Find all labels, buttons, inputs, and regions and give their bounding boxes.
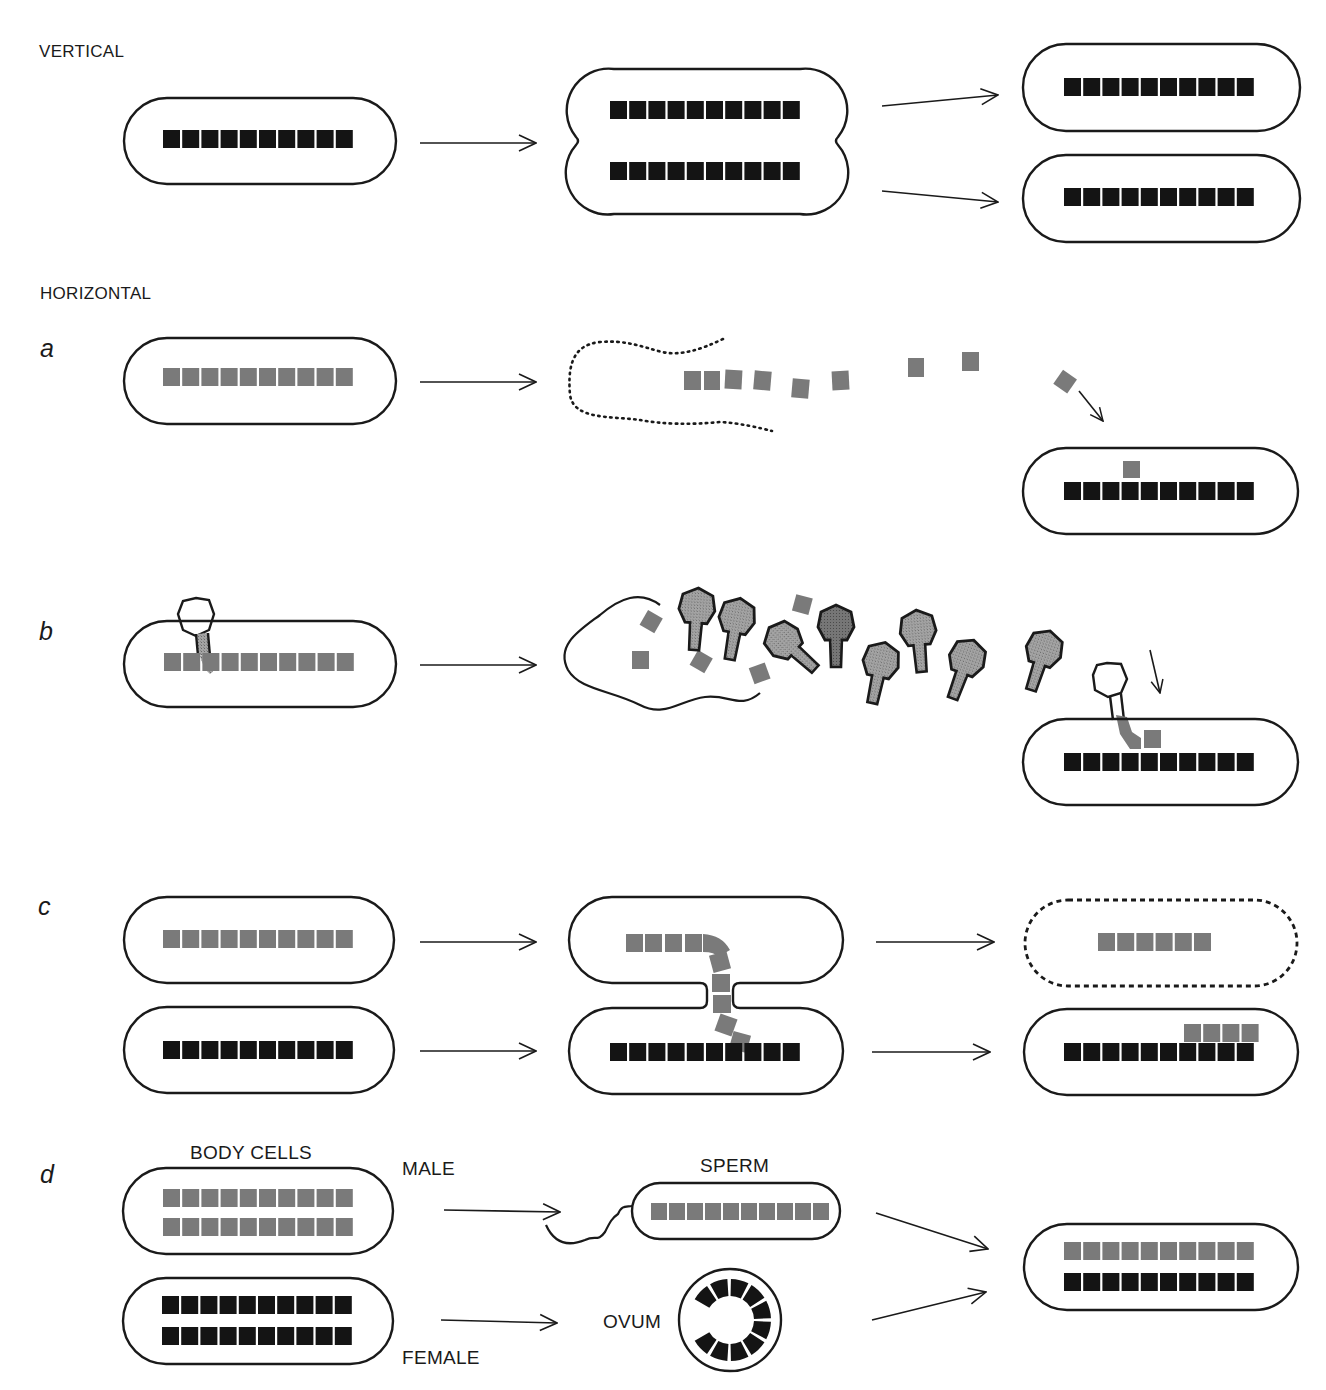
gene-block	[668, 1043, 685, 1061]
gene-block	[1122, 753, 1139, 771]
panel-label-c: c	[38, 892, 51, 921]
male-body-cell	[123, 1168, 393, 1254]
gene-block	[221, 1041, 238, 1059]
gene-block	[240, 368, 257, 386]
gene-block	[1122, 78, 1139, 96]
gene-block	[201, 130, 218, 148]
gene-block	[181, 1296, 198, 1314]
gene-block	[764, 101, 781, 119]
gene-block	[1179, 1273, 1196, 1291]
label-ovum: OVUM	[603, 1311, 661, 1333]
integrated-gene-a	[1123, 461, 1140, 478]
gene-block	[1117, 933, 1134, 951]
gene-block	[297, 1189, 314, 1207]
gene-block	[277, 1327, 294, 1345]
label-sperm: SPERM	[700, 1155, 769, 1177]
gene-block	[1083, 753, 1100, 771]
gene-block	[201, 930, 218, 948]
gene-block	[163, 130, 180, 148]
gene-block	[725, 101, 742, 119]
gene-block	[1160, 1043, 1177, 1061]
gene-block	[220, 1327, 237, 1345]
daughter-arrow-top	[882, 95, 998, 106]
section-title-vertical: VERTICAL	[39, 42, 124, 62]
gene-block	[278, 930, 295, 948]
gene-block	[813, 1203, 829, 1220]
gene-block	[1218, 753, 1235, 771]
gene-block	[297, 130, 314, 148]
phage-icon	[898, 609, 939, 674]
gene-block	[1179, 482, 1196, 500]
gene-block	[336, 368, 353, 386]
gene-block	[1237, 482, 1254, 500]
uptake-arrow-a	[1079, 391, 1103, 421]
gene-block	[259, 368, 276, 386]
gene-block	[278, 368, 295, 386]
vertical-section	[124, 44, 1300, 242]
gene-block	[1064, 753, 1081, 771]
gene-block	[202, 653, 219, 671]
gene-block	[687, 1043, 704, 1061]
gene-block	[1141, 753, 1158, 771]
gene-block	[1141, 78, 1158, 96]
gene-block	[1198, 188, 1215, 206]
gene-block	[725, 1043, 742, 1061]
gene-block	[1064, 1242, 1081, 1260]
gene-block	[182, 1041, 199, 1059]
female-body-cell	[123, 1278, 393, 1364]
gene-block	[1083, 188, 1100, 206]
gene-block	[221, 1218, 238, 1236]
gene-block	[648, 101, 665, 119]
gene-block	[317, 1189, 334, 1207]
gene-block	[297, 1218, 314, 1236]
gene-block	[201, 1041, 218, 1059]
gene-block	[317, 930, 334, 948]
gene-block	[1122, 188, 1139, 206]
gene-block	[221, 1189, 238, 1207]
gene-block	[317, 1041, 334, 1059]
gene-block	[1203, 1024, 1220, 1042]
gene-block	[629, 101, 646, 119]
meiosis-arrow-male	[444, 1210, 560, 1212]
female-chromosome-2	[162, 1327, 352, 1345]
gene-block	[337, 653, 354, 671]
gene-block	[259, 1041, 276, 1059]
phage-icon	[936, 634, 991, 705]
gene-block	[1098, 933, 1115, 951]
gene-block	[610, 101, 627, 119]
gene-block	[183, 653, 200, 671]
recipient-chromosome-a	[1064, 482, 1254, 500]
gene-block	[336, 1218, 353, 1236]
sperm-chromosome	[651, 1203, 829, 1220]
gene-block	[182, 930, 199, 948]
gene-block	[1064, 482, 1081, 500]
integrated-genes-c	[1184, 1024, 1259, 1042]
gene-block	[648, 162, 665, 180]
recipient-chromosome-c	[163, 1041, 353, 1059]
gene-block	[1160, 188, 1177, 206]
gene-block	[1102, 753, 1119, 771]
gene-block	[163, 1041, 180, 1059]
gene-block	[1141, 1242, 1158, 1260]
gene-block	[201, 368, 218, 386]
gene-block	[777, 1203, 793, 1220]
gene-block	[259, 130, 276, 148]
gene-block	[1083, 78, 1100, 96]
gene-block	[258, 1327, 275, 1345]
gene-block	[278, 130, 295, 148]
gene-block	[222, 653, 239, 671]
gene-block	[277, 1296, 294, 1314]
gene-block	[1122, 1242, 1139, 1260]
gene-block	[201, 1218, 218, 1236]
gene-block	[1218, 1242, 1235, 1260]
gene-block	[705, 1203, 721, 1220]
gene-block	[297, 1041, 314, 1059]
remaining-donor-chromosome	[1098, 933, 1211, 951]
gene-block	[259, 1218, 276, 1236]
gene-block	[259, 1189, 276, 1207]
gene-block	[240, 1041, 257, 1059]
gene-block	[1083, 1273, 1100, 1291]
gene-block	[336, 1041, 353, 1059]
gene-block	[259, 930, 276, 948]
gene-block	[669, 1203, 685, 1220]
